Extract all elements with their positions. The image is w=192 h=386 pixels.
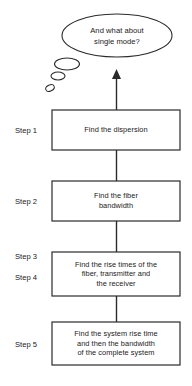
thought-tail-bubble-medium (51, 72, 65, 80)
step-label-5: Step 5 (2, 340, 50, 350)
step-label-2: Step 2 (2, 197, 50, 207)
step-box-5[interactable] (52, 322, 180, 365)
step-label-1: Step 1 (2, 126, 50, 136)
thought-tail-bubble-small (45, 83, 56, 92)
thought-tail-bubble-large (55, 58, 80, 70)
step-label-4: Step 4 (2, 273, 50, 283)
step-label-3: Step 3 (2, 252, 50, 262)
thought-bubble-ellipse (62, 14, 172, 57)
step-box-1[interactable] (52, 110, 180, 150)
flowchart-graphics (0, 0, 192, 386)
step-box-3-4[interactable] (52, 252, 180, 296)
arrow-head-icon (112, 69, 121, 79)
flowchart-canvas: And what about single mode? Step 1 Step … (0, 0, 192, 386)
step-box-2[interactable] (52, 181, 180, 221)
